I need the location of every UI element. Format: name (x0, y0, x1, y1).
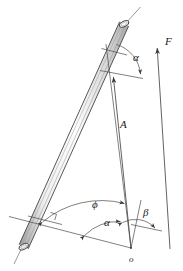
phi-label: ϕ (92, 199, 98, 210)
alpha-top-label: α (133, 52, 139, 63)
origin-point (130, 247, 132, 249)
origin-to-force-line (131, 200, 141, 248)
alpha-bottom-label: α (104, 217, 110, 228)
mechanics-figure: α F A ϕ α β o (0, 0, 183, 271)
beta-arc (123, 219, 156, 228)
rod-axis-extension-top (127, 7, 141, 23)
vector-a-label: A (120, 119, 127, 130)
rod-assembly (14, 7, 141, 264)
origin-label: o (129, 255, 134, 264)
alpha-bottom-arc (85, 221, 121, 235)
vectors (106, 44, 170, 249)
rod-axis-extension-bottom (14, 249, 22, 265)
beta-label: β (143, 207, 148, 218)
force-f-label: F (165, 36, 172, 47)
rod-body (19, 22, 128, 249)
vector-a (113, 77, 131, 248)
force-f-vector (157, 48, 170, 249)
figure-canvas (0, 0, 183, 271)
right-angle-marker (51, 213, 57, 221)
